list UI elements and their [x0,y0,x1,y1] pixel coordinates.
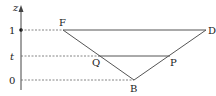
z-axis-arrow-icon [19,5,24,12]
diagram-canvas: z 1 t 0 F D B Q P [0,0,216,96]
point-label-Q: Q [92,57,100,68]
tick-label-0: 0 [9,75,15,86]
tick-label-1: 1 [9,25,15,36]
segment-DB [134,30,206,80]
z-axis-label: z [12,2,19,13]
tick-label-t: t [10,51,15,62]
point-label-B: B [130,83,137,94]
point-label-D: D [208,25,216,36]
point-label-P: P [170,57,177,68]
segment-FB [63,30,134,80]
diagram-svg: z 1 t 0 F D B Q P [0,0,216,96]
point-label-F: F [59,17,66,28]
